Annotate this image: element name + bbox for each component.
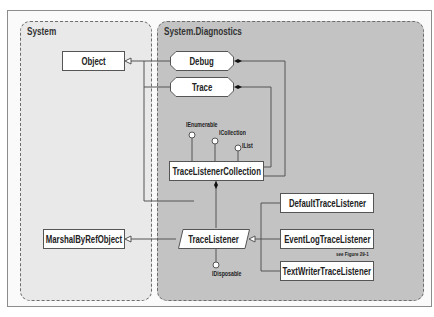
class-tracelistenercollection: TraceListenerCollection <box>169 161 264 181</box>
class-trace: Trace <box>170 77 234 97</box>
class-defaulttracelistener-label: DefaultTraceListener <box>288 198 365 209</box>
class-textwritertracelistener-label: TextWriterTraceListener <box>283 266 372 277</box>
see-figure-note: see Figure 29-1 <box>336 251 369 257</box>
interface-idisposable-label: IDisposable <box>212 270 241 277</box>
interface-ilist-label: IList <box>242 142 253 149</box>
class-object-label: Object <box>81 56 105 67</box>
interface-icollection-label: ICollection <box>219 129 246 136</box>
class-eventlogtracelistener: EventLogTraceListener <box>280 229 374 249</box>
class-defaulttracelistener: DefaultTraceListener <box>280 193 374 213</box>
class-marshalbyrefobject-label: MarshalByRefObject <box>46 234 122 245</box>
class-debug: Debug <box>170 51 234 71</box>
class-debug-label: Debug <box>190 56 214 67</box>
class-trace-label: Trace <box>192 82 212 93</box>
interface-ienumerable-label: IEnumerable <box>186 121 218 128</box>
class-marshalbyrefobject: MarshalByRefObject <box>43 229 125 249</box>
class-tracelistener: TraceListener <box>178 229 250 249</box>
class-object: Object <box>62 51 125 71</box>
class-tracelistener-label: TraceListener <box>189 234 240 245</box>
class-tracelistenercollection-label: TraceListenerCollection <box>172 166 260 177</box>
class-eventlogtracelistener-label: EventLogTraceListener <box>284 234 370 245</box>
class-textwritertracelistener: TextWriterTraceListener <box>280 261 374 281</box>
